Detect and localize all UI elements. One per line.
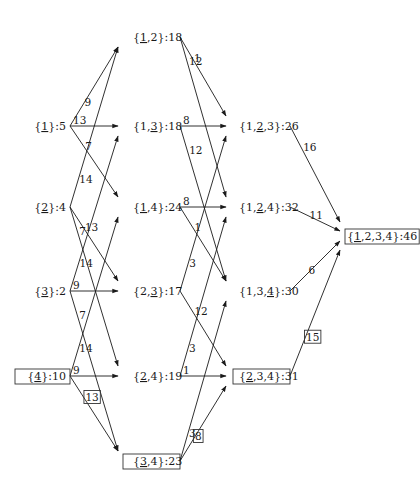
subset-lattice-diagram: 9137141371497149131128128131231381611615…: [0, 0, 420, 495]
edge-weight: 15: [306, 331, 319, 343]
node-n2: {2}:4: [34, 201, 66, 214]
node-label: {1,2}:18: [133, 31, 182, 44]
edge-weight-label: 3: [189, 257, 196, 269]
edge-n34-n234: [180, 386, 226, 461]
edge-weight-label: 8: [183, 195, 190, 207]
node-n24: {2,4}:19: [133, 370, 182, 383]
edge-weight: 11: [310, 209, 323, 221]
edge-weight: 9: [84, 96, 91, 108]
edge-n12-n123: [180, 37, 226, 116]
edge-weight: 13: [85, 221, 98, 233]
edge-weight: 13: [73, 114, 86, 126]
edge-weight-label: 7: [85, 140, 92, 152]
edge-weight-label: 14: [79, 257, 93, 269]
edge-weight: 13: [85, 391, 98, 403]
edge-weight-label: 12: [194, 305, 207, 317]
edge-weight-label: 15: [305, 330, 321, 343]
node-label: {1,3,4}:30: [239, 285, 299, 298]
node-label: {1,3}:18: [133, 120, 182, 133]
node-n1234: {1,2,3,4}:46: [345, 229, 419, 244]
edge-weight: 12: [194, 305, 207, 317]
node-label: {4}:10: [27, 370, 66, 383]
node-n34: {3,4}:23: [123, 454, 182, 469]
node-label: {1,2,4}:32: [239, 201, 299, 214]
edge-n24-n124: [180, 217, 226, 376]
edge-n4-n34: [70, 376, 118, 451]
edge-weight-label: 14: [79, 342, 93, 354]
node-label: {3}:2: [34, 285, 66, 298]
edge-weight-label: 13: [73, 114, 86, 126]
edge-weight-label: 14: [79, 173, 93, 185]
edge-n4-n14: [70, 217, 118, 376]
edge-weight-label: 9: [84, 96, 91, 108]
edge-weight-label: 8: [183, 114, 190, 126]
edge-weight-label: 6: [309, 264, 316, 276]
node-n12: {1,2}:18: [133, 31, 182, 44]
edge-weight: 14: [79, 173, 93, 185]
node-n134: {1,3,4}:30: [239, 285, 299, 298]
edge-n2-n23: [70, 207, 118, 281]
node-n3: {3}:2: [34, 285, 66, 298]
edge-weight: 14: [79, 342, 93, 354]
node-label: {1}:5: [34, 120, 66, 133]
node-n234: {2,3,4}:31: [233, 369, 299, 384]
node-n23: {2,3}:17: [133, 285, 182, 298]
edge-weight-label: 1: [183, 364, 190, 376]
edge-n23-n123: [180, 136, 226, 291]
edge-weight: 9: [73, 364, 80, 376]
node-n1: {1}:5: [34, 120, 66, 133]
node-label: {2,3,4}:31: [239, 370, 299, 383]
edge-n23-n234: [180, 291, 226, 366]
edge-weight-label: 12: [189, 144, 202, 156]
node-label: {2}:4: [34, 201, 66, 214]
node-label: {2,4}:19: [133, 370, 182, 383]
edge-weight-label: 13: [84, 391, 100, 404]
node-label: {2,3}:17: [133, 285, 182, 298]
edges-layer: [70, 37, 340, 461]
edge-weight-label: 9: [73, 364, 80, 376]
edge-weight: 7: [85, 140, 92, 152]
edge-weight-label: 13: [85, 221, 98, 233]
edge-weight-label: 3: [189, 342, 196, 354]
edge-weight: 16: [303, 141, 317, 153]
edge-weight: 9: [73, 279, 80, 291]
node-n4: {4}:10: [15, 369, 70, 384]
edge-weight: 12: [189, 55, 202, 67]
edge-n1-n14: [70, 126, 118, 197]
edge-weight-label: 7: [79, 225, 86, 237]
edge-weight: 1: [195, 221, 202, 233]
edge-weight: 7: [79, 225, 86, 237]
edge-weight-label: 7: [79, 309, 86, 321]
edge-weight: 6: [309, 264, 316, 276]
node-label: {1,2,3}:26: [239, 120, 299, 133]
node-label: {1,2,3,4}:46: [347, 230, 417, 243]
edge-weight: 8: [195, 430, 202, 442]
edge-weight: 8: [183, 195, 190, 207]
node-label: {3,4}:23: [133, 455, 182, 468]
edge-weight: 3: [189, 257, 196, 269]
node-n13: {1,3}:18: [133, 120, 182, 133]
edge-n3-n13: [70, 136, 118, 291]
edge-weight-label: 8: [193, 430, 203, 443]
node-label: {1,4}:24: [133, 201, 182, 214]
edge-n14-n134: [180, 207, 226, 281]
edge-weight: 1: [183, 364, 190, 376]
node-n124: {1,2,4}:32: [239, 201, 299, 214]
edge-weight-label: 11: [310, 209, 323, 221]
edge-weight-label: 16: [303, 141, 317, 153]
edge-weight-label: 12: [189, 55, 202, 67]
edge-weight-label: 9: [73, 279, 80, 291]
edge-weight: 14: [79, 257, 93, 269]
node-n14: {1,4}:24: [133, 201, 182, 214]
edge-weight: 8: [183, 114, 190, 126]
edge-weight: 7: [79, 309, 86, 321]
edge-weight-label: 1: [195, 221, 202, 233]
node-n123: {1,2,3}:26: [239, 120, 299, 133]
edge-n2-n12: [70, 47, 118, 207]
edge-weight: 3: [189, 342, 196, 354]
edge-weight: 12: [189, 144, 202, 156]
